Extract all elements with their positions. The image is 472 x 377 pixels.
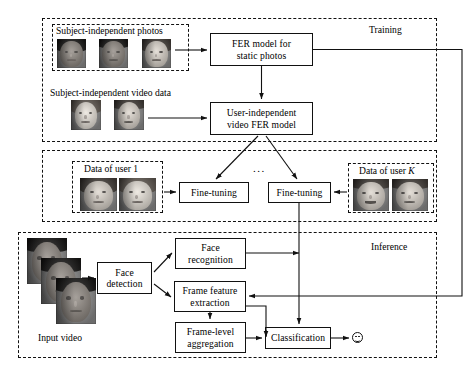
classification-label: Classification [269,332,327,343]
face-detection-line1: Face [104,267,144,278]
data-of-user-k-label: Data of user K [359,166,415,177]
data-of-user-1-label: Data of user 1 [84,164,138,175]
user-k-thumbnail-1 [353,179,389,211]
fer-static-model-line2: static photos [230,50,293,61]
finetuning-ellipsis: ... [253,163,266,174]
input-video-frame-3 [56,278,96,324]
frame-feature-line1: Frame feature [181,285,240,296]
classification-box[interactable]: Classification [265,327,331,349]
user-1-thumbnail-1 [80,178,117,211]
frame-level-aggregation-box[interactable]: Frame-level aggregation [175,322,246,353]
user-independent-model-box[interactable]: User-independent video FER model [210,102,313,135]
smiley-face-icon [352,332,363,343]
subject-independent-video-label: Subject-independent video data [50,88,171,99]
user-k-thumbnail-2 [392,179,428,211]
fine-tuning-user-k-box[interactable]: Fine-tuning [268,182,331,203]
frame-aggregation-line1: Frame-level [185,326,236,337]
diagram-canvas: Training Subject-independent photos Subj… [0,0,472,377]
frame-aggregation-line2: aggregation [185,338,236,349]
face-recognition-box[interactable]: Face recognition [175,238,246,269]
fer-static-model-box[interactable]: FER model for static photos [210,33,313,66]
face-detection-line2: detection [104,278,144,289]
user-1-thumbnail-2 [119,178,156,211]
face-recognition-line2: recognition [186,254,235,265]
inference-stage-label: Inference [371,242,407,253]
photo-thumbnail-1 [57,39,86,68]
input-video-label: Input video [38,333,82,344]
user-independent-model-line1: User-independent [225,107,299,118]
frame-feature-line2: extraction [181,297,240,308]
user-independent-model-line2: video FER model [225,119,299,130]
subject-independent-photos-label: Subject-independent photos [56,26,163,37]
photo-thumbnail-3 [142,39,171,68]
photo-thumbnail-2 [99,39,128,68]
training-stage-label: Training [369,25,402,36]
fine-tuning-user-1-box[interactable]: Fine-tuning [179,182,249,203]
fine-tuning-user-1-label: Fine-tuning [189,187,239,198]
fine-tuning-user-k-label: Fine-tuning [275,187,325,198]
video-thumbnail-1 [71,100,101,130]
frame-feature-extraction-box[interactable]: Frame feature extraction [174,281,246,312]
video-thumbnail-2 [114,100,144,130]
face-recognition-line1: Face [186,242,235,253]
data-of-user-k-text: Data of user K [359,165,415,176]
fer-static-model-line1: FER model for [230,38,293,49]
face-detection-box[interactable]: Face detection [97,262,152,294]
